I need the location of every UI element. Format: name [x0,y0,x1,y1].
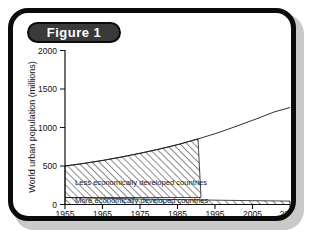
x-tick-label-1985: 1985 [168,209,187,219]
y-axis-title: World urban population (millions) [27,61,37,192]
series-area-ledc [65,139,201,198]
figure-badge-label: Figure 1 [47,25,102,40]
y-tick-label-0: 0 [52,200,57,210]
chart-container: 0 500 1000 1500 2000 1955 1965 1975 [13,13,296,221]
y-tick-label-2000: 2000 [38,46,57,56]
y-tick-label-1500: 1500 [38,84,57,94]
y-axis-ticks [60,51,65,205]
x-tick-label-2005: 2005 [243,209,262,219]
y-tick-label-1000: 1000 [38,123,57,133]
x-tick-label-1995: 1995 [206,209,225,219]
x-tick-label-1955: 1955 [56,209,75,219]
plot-area: 0 500 1000 1500 2000 1955 1965 1975 [27,46,296,222]
series-annotation-medc: More economically developed countries [75,196,209,205]
y-tick-label-500: 500 [43,161,57,171]
x-tick-label-1975: 1975 [131,209,150,219]
x-axis-title: Year [170,218,188,221]
urban-population-area-chart: 0 500 1000 1500 2000 1955 1965 1975 [13,13,296,221]
series-annotation-ledc: Less economically developed countries [75,178,207,187]
figure-frame: 0 500 1000 1500 2000 1955 1965 1975 [8,8,296,221]
figure-number-badge: Figure 1 [27,22,121,43]
x-tick-label-1965: 1965 [93,209,112,219]
